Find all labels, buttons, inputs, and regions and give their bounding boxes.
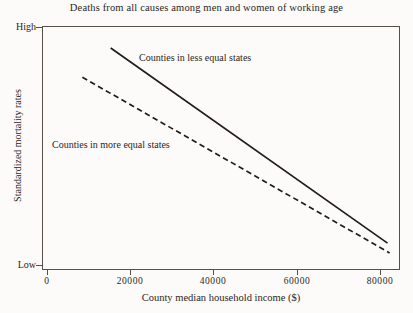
series-line-more-equal [82,77,389,253]
series-annotation-more-equal: Counties in more equal states [52,139,170,150]
chart-series-canvas [0,0,413,313]
x-axis-label: County median household income ($) [42,292,400,303]
chart-figure: Deaths from all causes among men and wom… [0,0,413,313]
series-annotation-less-equal: Counties in less equal states [139,52,251,63]
